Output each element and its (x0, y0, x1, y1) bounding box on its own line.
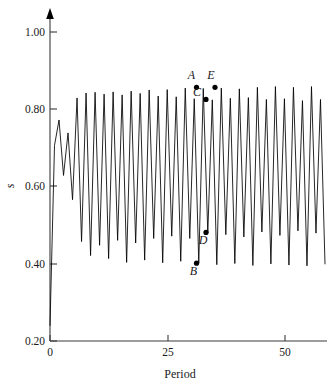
x-tick-label-0: 0 (47, 346, 53, 358)
y-axis-arrowhead (46, 8, 54, 19)
x-tick-label-50: 50 (279, 346, 291, 358)
annotation-marker-e (212, 85, 217, 90)
chart-figure: 1.00 0.80 0.60 0.40 0.20 0 25 50 Period … (0, 0, 332, 386)
x-tick-labels: 0 25 50 (47, 346, 291, 358)
annotation-label-e: E (206, 68, 215, 82)
chart-plot-area: 1.00 0.80 0.60 0.40 0.20 0 25 50 Period … (0, 0, 332, 386)
series-line-s (50, 87, 325, 326)
annotation-label-b: B (190, 264, 198, 278)
annotation-label-c: C (193, 85, 202, 99)
annotation-label-a: A (187, 68, 196, 82)
x-axis-title: Period (164, 367, 195, 381)
x-tick-marks (50, 335, 285, 341)
y-axis-title: s (3, 183, 17, 188)
y-tick-label-4: 1.00 (25, 26, 45, 38)
y-tick-labels: 1.00 0.80 0.60 0.40 0.20 (25, 26, 45, 347)
y-tick-label-0: 0.20 (25, 335, 45, 347)
y-tick-label-1: 0.40 (25, 258, 45, 270)
annotation-label-d: D (198, 233, 208, 247)
y-tick-label-3: 0.80 (25, 103, 45, 115)
y-tick-label-2: 0.60 (25, 180, 45, 192)
annotation-marker-c (203, 97, 208, 102)
x-tick-label-25: 25 (162, 346, 174, 358)
y-axis (46, 8, 54, 341)
